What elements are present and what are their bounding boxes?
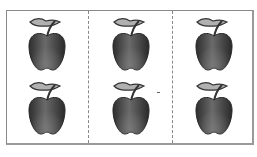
stray-mark xyxy=(157,92,160,93)
dashed-divider-1 xyxy=(88,11,89,143)
apple-icon xyxy=(193,80,235,136)
apple-icon xyxy=(26,16,68,72)
apple-icon xyxy=(193,16,235,72)
dashed-divider-2 xyxy=(172,11,173,143)
apple-icon xyxy=(26,80,68,136)
apple-icon xyxy=(110,80,152,136)
apple-icon xyxy=(110,16,152,72)
